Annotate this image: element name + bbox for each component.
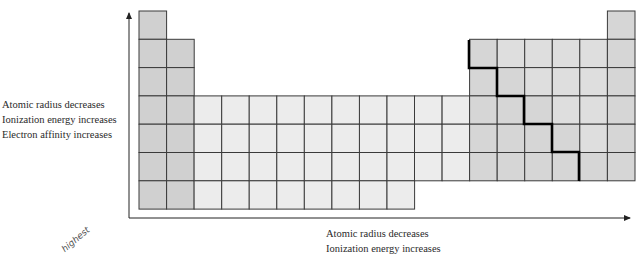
element-cell xyxy=(470,153,498,181)
element-cell xyxy=(194,96,222,124)
element-cell xyxy=(167,181,195,209)
element-cell xyxy=(222,153,250,181)
vertical-trend-labels: Atomic radius decreases Ionization energ… xyxy=(2,97,117,142)
element-cell xyxy=(139,11,167,39)
element-cell xyxy=(359,96,387,124)
element-cell xyxy=(580,39,608,67)
element-cell xyxy=(332,124,360,152)
element-cell xyxy=(525,96,553,124)
element-cell xyxy=(139,96,167,124)
element-cell xyxy=(304,96,332,124)
element-cell xyxy=(497,96,525,124)
element-cell xyxy=(359,153,387,181)
element-cell xyxy=(607,11,635,39)
element-cell xyxy=(525,39,553,67)
element-cell xyxy=(497,124,525,152)
element-cell xyxy=(607,68,635,96)
element-cell xyxy=(194,124,222,152)
element-cell xyxy=(194,181,222,209)
element-cell xyxy=(415,96,443,124)
element-cell xyxy=(470,68,498,96)
element-cell xyxy=(552,96,580,124)
element-cell xyxy=(167,153,195,181)
element-cell xyxy=(277,124,305,152)
element-cell xyxy=(552,124,580,152)
element-cell xyxy=(139,181,167,209)
element-cell xyxy=(304,181,332,209)
element-cell xyxy=(167,68,195,96)
element-cell xyxy=(552,39,580,67)
element-cell xyxy=(552,68,580,96)
element-cell xyxy=(497,68,525,96)
element-cell xyxy=(525,124,553,152)
element-cell xyxy=(222,124,250,152)
element-cell xyxy=(139,68,167,96)
element-cell xyxy=(497,153,525,181)
element-cell xyxy=(607,153,635,181)
element-cell xyxy=(332,96,360,124)
element-cell xyxy=(332,181,360,209)
element-cell xyxy=(222,96,250,124)
element-cell xyxy=(139,153,167,181)
element-cell xyxy=(525,68,553,96)
element-cell xyxy=(415,153,443,181)
element-cell xyxy=(222,181,250,209)
element-cell xyxy=(580,153,608,181)
element-cell xyxy=(277,153,305,181)
element-cell xyxy=(580,68,608,96)
horizontal-trend-labels: Atomic radius decreases Ionization energ… xyxy=(326,226,441,254)
element-cell xyxy=(359,181,387,209)
element-cell xyxy=(359,124,387,152)
element-cell xyxy=(249,124,277,152)
vertical-label-atomic-radius: Atomic radius decreases xyxy=(2,97,117,112)
element-cell xyxy=(387,181,415,209)
element-cell xyxy=(470,96,498,124)
element-cell xyxy=(167,39,195,67)
element-cell xyxy=(470,39,498,67)
element-cell xyxy=(304,153,332,181)
element-cell xyxy=(552,153,580,181)
element-cell xyxy=(194,153,222,181)
element-cell xyxy=(304,124,332,152)
element-cells xyxy=(139,11,635,209)
element-cell xyxy=(607,124,635,152)
element-cell xyxy=(607,39,635,67)
element-cell xyxy=(249,153,277,181)
element-cell xyxy=(249,181,277,209)
element-cell xyxy=(249,96,277,124)
element-cell xyxy=(580,124,608,152)
element-cell xyxy=(415,124,443,152)
element-cell xyxy=(525,153,553,181)
element-cell xyxy=(167,96,195,124)
horizontal-label-atomic-radius: Atomic radius decreases xyxy=(326,226,441,241)
element-cell xyxy=(387,124,415,152)
element-cell xyxy=(470,124,498,152)
element-cell xyxy=(607,96,635,124)
horizontal-label-ionization-energy: Ionization energy increases xyxy=(326,241,441,254)
element-cell xyxy=(277,181,305,209)
vertical-label-electron-affinity: Electron affinity increases xyxy=(2,127,117,142)
element-cell xyxy=(497,39,525,67)
vertical-label-ionization-energy: Ionization energy increases xyxy=(2,112,117,127)
element-cell xyxy=(167,124,195,152)
element-cell xyxy=(139,124,167,152)
element-cell xyxy=(387,96,415,124)
element-cell xyxy=(387,153,415,181)
element-cell xyxy=(442,96,470,124)
element-cell xyxy=(442,153,470,181)
element-cell xyxy=(580,96,608,124)
element-cell xyxy=(332,153,360,181)
element-cell xyxy=(442,124,470,152)
element-cell xyxy=(277,96,305,124)
element-cell xyxy=(139,39,167,67)
